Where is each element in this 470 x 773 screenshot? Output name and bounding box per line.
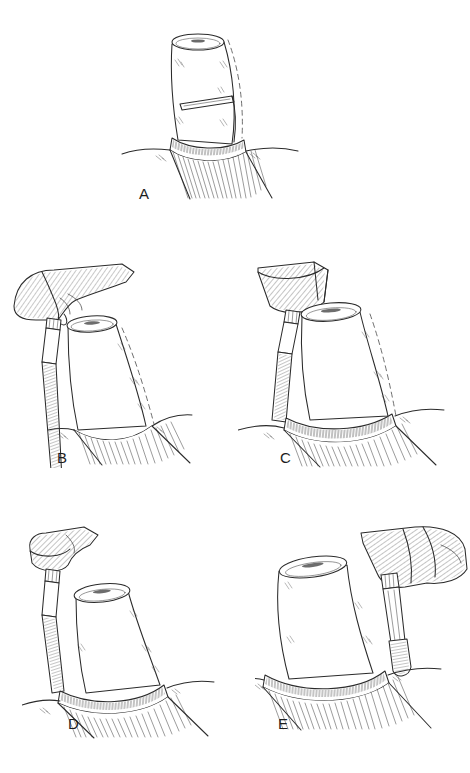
- bur-shank: [42, 581, 59, 617]
- bur-shank: [42, 328, 60, 364]
- panel-label-a: A: [139, 186, 150, 201]
- gum-line-left: [238, 426, 284, 430]
- bur-shank: [278, 322, 298, 354]
- gum-line-right: [167, 681, 214, 688]
- occlusal-pit: [191, 39, 205, 42]
- prepared-tooth-crown: [68, 324, 146, 430]
- gum-line-left: [122, 149, 170, 154]
- hand-hatching: [15, 266, 130, 319]
- gum-line-right: [395, 409, 444, 416]
- prepared-tooth-crown: [171, 42, 234, 144]
- figure-root: A: [0, 0, 470, 773]
- gum-line-left: [22, 700, 60, 705]
- panel-label-e: E: [278, 716, 289, 731]
- panel-label-d: D: [68, 716, 79, 731]
- hand-hatching: [362, 529, 465, 586]
- panel-label-c: C: [280, 450, 291, 465]
- panel-a-illustration: [120, 18, 310, 208]
- panel-d-illustration: [22, 525, 232, 740]
- prepared-tooth-crown: [278, 565, 373, 679]
- panel-label-b: B: [57, 450, 68, 465]
- panel-c-illustration: [238, 258, 453, 468]
- gum-line-left: [255, 679, 264, 683]
- prepared-tooth-crown: [76, 591, 160, 693]
- prepared-tooth-crown: [301, 312, 388, 420]
- panel-e-illustration: [255, 525, 470, 740]
- panel-b-illustration: [6, 258, 221, 468]
- gum-line-right: [246, 148, 298, 151]
